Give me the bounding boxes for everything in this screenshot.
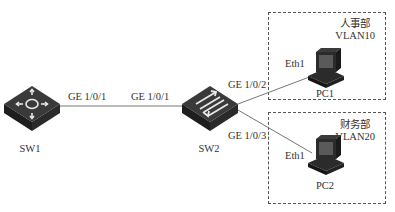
sw1-switch-icon: [4, 86, 60, 131]
sw2-port-ge103-label: GE 1/0/3: [228, 130, 266, 142]
sw2-switch-icon: [182, 86, 238, 131]
network-diagram: 人事部 VLAN10 财务部 VLAN20: [0, 0, 395, 212]
pc1-port-label: Eth1: [285, 58, 305, 70]
sw1-port-label: GE 1/0/1: [68, 91, 106, 103]
sw1-label: SW1: [20, 143, 41, 155]
pc1-computer-icon: [308, 48, 344, 88]
sw2-label: SW2: [199, 143, 220, 155]
pc2-label: PC2: [316, 180, 334, 192]
topology-graphics: [0, 0, 395, 212]
sw2-port-ge102-label: GE 1/0/2: [228, 79, 266, 91]
sw2-port-ge101-label: GE 1/0/1: [131, 91, 169, 103]
pc1-label: PC1: [316, 88, 334, 100]
pc2-port-label: Eth1: [285, 150, 305, 162]
pc2-computer-icon: [308, 135, 344, 175]
